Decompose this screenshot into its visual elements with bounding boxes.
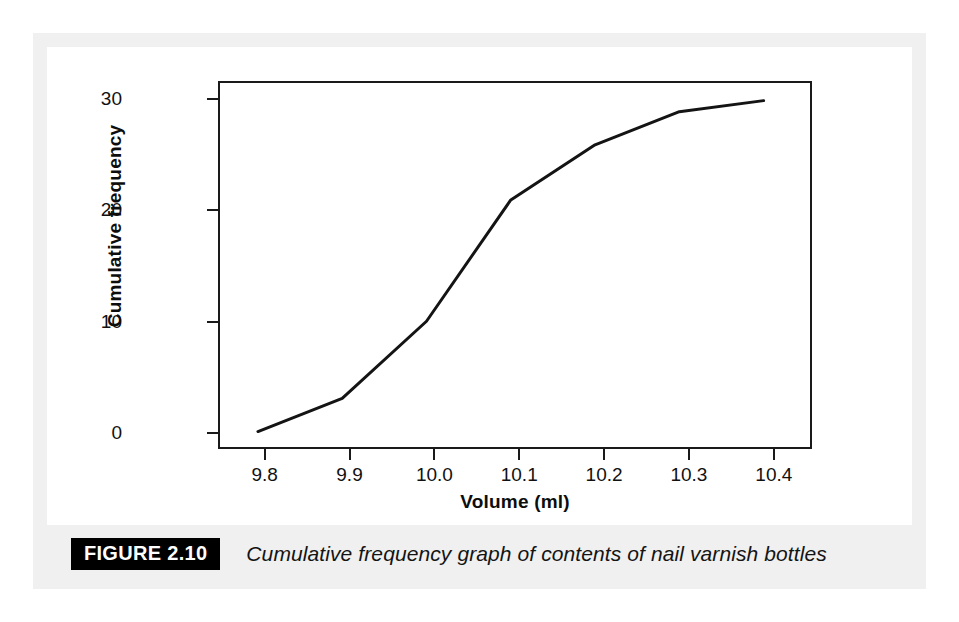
data-series-line [258, 101, 764, 432]
x-axis-tick-label: 10.4 [734, 465, 814, 484]
x-axis-tick-label: 10.3 [649, 465, 729, 484]
x-axis-tick [603, 449, 605, 460]
figure-number-badge: FIGURE 2.10 [71, 538, 220, 570]
x-axis-tick [773, 449, 775, 460]
x-axis-tick-label: 9.8 [225, 465, 305, 484]
x-axis-tick-label: 10.1 [479, 465, 559, 484]
figure-caption-row: FIGURE 2.10 Cumulative frequency graph o… [33, 534, 926, 574]
cumulative-frequency-curve-svg [220, 83, 810, 447]
x-axis-tick [688, 449, 690, 460]
x-axis-tick-label: 10.2 [564, 465, 644, 484]
x-axis-tick [433, 449, 435, 460]
y-axis-tick [207, 98, 218, 100]
x-axis-title: Volume (ml) [218, 491, 812, 513]
figure-caption-text: Cumulative frequency graph of contents o… [246, 542, 827, 566]
x-axis-tick [518, 449, 520, 460]
x-axis-tick-label: 9.9 [310, 465, 390, 484]
y-axis-tick [207, 209, 218, 211]
y-axis-tick [207, 432, 218, 434]
x-axis-tick-label: 10.0 [394, 465, 474, 484]
figure-root: 0102030 9.89.910.010.110.210.310.4 Volum… [0, 0, 959, 622]
x-axis-tick [264, 449, 266, 460]
y-axis-title: Cumulative frequency [104, 96, 126, 356]
x-axis-tick [349, 449, 351, 460]
chart-area: 0102030 9.89.910.010.110.210.310.4 Volum… [47, 47, 912, 525]
y-axis-tick [207, 321, 218, 323]
y-axis-tick-label: 0 [42, 423, 122, 442]
plot-frame [218, 81, 812, 449]
